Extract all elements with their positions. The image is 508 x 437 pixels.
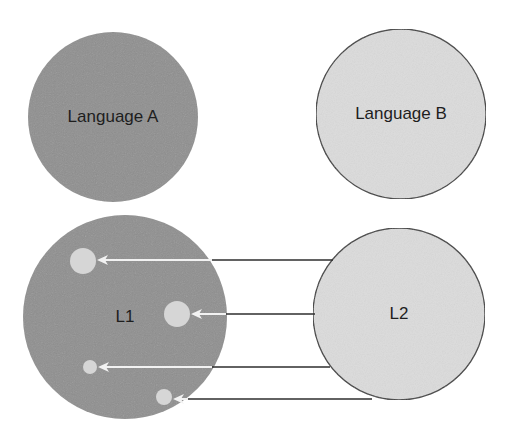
transfer-point-circle [156, 389, 172, 405]
transfer-point-circle [83, 360, 97, 374]
l1-group: L1 [23, 215, 227, 419]
transfer-arrow [173, 394, 372, 404]
language-a-label: Language A [68, 107, 159, 126]
language-b-group: Language B [316, 29, 486, 199]
language-a-group: Language A [28, 32, 198, 202]
transfer-point-circle [70, 248, 96, 274]
language-b-label: Language B [355, 104, 447, 123]
l2-group: L2 [313, 228, 485, 400]
language-transfer-diagram: Language A Language B L1 L2 [0, 0, 508, 437]
l2-label: L2 [390, 304, 409, 323]
transfer-point-circle [164, 301, 190, 327]
l1-label: L1 [116, 307, 135, 326]
